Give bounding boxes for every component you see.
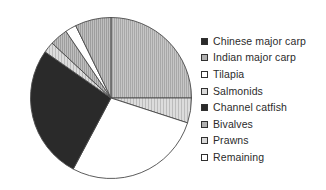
legend-swatch-chinese-major-carp xyxy=(201,38,208,45)
legend-swatch-salmonids xyxy=(201,88,208,95)
legend-item-channel-catfish[interactable]: Channel catfish xyxy=(201,99,325,116)
legend-label-indian-major-carp: Indian major carp xyxy=(213,52,296,63)
legend-item-remaining[interactable]: Remaining xyxy=(201,149,325,166)
legend-swatch-tilapia xyxy=(201,71,208,78)
legend-item-chinese-major-carp[interactable]: Chinese major carp xyxy=(201,33,325,50)
pie-plot-area xyxy=(28,14,194,182)
pie-slice-chinese-major-carp[interactable] xyxy=(111,18,192,99)
legend-item-bivalves[interactable]: Bivalves xyxy=(201,116,325,133)
legend-item-tilapia[interactable]: Tilapia xyxy=(201,66,325,83)
legend-label-prawns: Prawns xyxy=(213,135,249,146)
legend-swatch-prawns xyxy=(201,137,208,144)
legend-label-bivalves: Bivalves xyxy=(213,119,253,130)
legend-swatch-channel-catfish xyxy=(201,104,208,111)
legend-swatch-bivalves xyxy=(201,121,208,128)
pie-chart-figure: Chinese major carp Indian major carp Til… xyxy=(0,0,326,190)
legend-item-prawns[interactable]: Prawns xyxy=(201,133,325,150)
legend-label-remaining: Remaining xyxy=(213,152,264,163)
legend-item-salmonids[interactable]: Salmonids xyxy=(201,83,325,100)
legend-label-tilapia: Tilapia xyxy=(213,69,244,80)
legend-item-indian-major-carp[interactable]: Indian major carp xyxy=(201,50,325,67)
legend-label-salmonids: Salmonids xyxy=(213,86,263,97)
legend-swatch-indian-major-carp xyxy=(201,54,208,61)
legend-swatch-remaining xyxy=(201,154,208,161)
pie-slices-group xyxy=(31,18,192,179)
chart-legend: Chinese major carp Indian major carp Til… xyxy=(201,33,325,166)
legend-label-channel-catfish: Channel catfish xyxy=(213,102,287,113)
legend-label-chinese-major-carp: Chinese major carp xyxy=(213,36,306,47)
pie-svg xyxy=(28,14,194,182)
